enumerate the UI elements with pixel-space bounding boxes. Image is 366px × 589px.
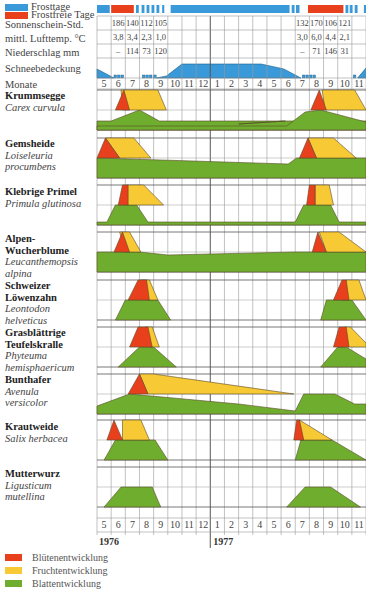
svg-text:7: 7 (300, 78, 305, 89)
svg-text:8: 8 (144, 78, 149, 89)
svg-text:132: 132 (296, 18, 309, 28)
svg-text:7: 7 (130, 519, 135, 530)
svg-text:4,4: 4,4 (325, 32, 336, 42)
svg-text:11: 11 (354, 519, 364, 530)
svg-text:120: 120 (154, 46, 167, 56)
svg-text:146: 146 (324, 46, 337, 56)
svg-text:10: 10 (170, 519, 180, 530)
svg-text:6: 6 (116, 519, 121, 530)
svg-text:6: 6 (116, 78, 121, 89)
svg-text:1976: 1976 (99, 536, 119, 547)
svg-text:9: 9 (328, 519, 333, 530)
svg-text:4: 4 (257, 519, 262, 530)
svg-text:10: 10 (340, 519, 350, 530)
svg-text:2: 2 (229, 78, 234, 89)
svg-text:2,1: 2,1 (339, 32, 350, 42)
svg-text:105: 105 (154, 18, 167, 28)
svg-text:5: 5 (102, 519, 107, 530)
svg-text:114: 114 (126, 46, 139, 56)
svg-text:12: 12 (198, 519, 208, 530)
svg-text:1: 1 (215, 519, 220, 530)
svg-text:6: 6 (286, 78, 291, 89)
svg-text:1,0: 1,0 (155, 32, 166, 42)
svg-text:6,0: 6,0 (311, 32, 322, 42)
svg-text:11: 11 (184, 519, 194, 530)
svg-text:–: – (299, 46, 305, 56)
svg-text:11: 11 (354, 78, 364, 89)
svg-text:71: 71 (312, 46, 321, 56)
svg-text:1: 1 (215, 78, 220, 89)
phenology-chart: 1861401121051321701061213,83,42,31,03,06… (0, 0, 366, 589)
svg-text:186: 186 (112, 18, 125, 28)
svg-text:–: – (115, 46, 121, 56)
svg-text:31: 31 (341, 46, 350, 56)
svg-text:12: 12 (198, 78, 208, 89)
svg-text:10: 10 (170, 78, 180, 89)
svg-text:2,3: 2,3 (141, 32, 152, 42)
svg-text:4: 4 (257, 78, 262, 89)
svg-text:170: 170 (310, 18, 323, 28)
svg-text:5: 5 (272, 519, 277, 530)
svg-text:1977: 1977 (213, 536, 233, 547)
svg-text:140: 140 (126, 18, 139, 28)
svg-text:3,8: 3,8 (113, 32, 124, 42)
svg-text:112: 112 (140, 18, 152, 28)
svg-text:8: 8 (144, 519, 149, 530)
svg-text:9: 9 (328, 78, 333, 89)
svg-text:73: 73 (142, 46, 151, 56)
svg-text:6: 6 (286, 519, 291, 530)
svg-text:5: 5 (272, 78, 277, 89)
svg-text:9: 9 (158, 78, 163, 89)
svg-text:2: 2 (229, 519, 234, 530)
svg-text:3: 3 (243, 519, 248, 530)
svg-text:9: 9 (158, 519, 163, 530)
svg-text:3: 3 (243, 78, 248, 89)
svg-text:11: 11 (184, 78, 194, 89)
svg-text:8: 8 (314, 519, 319, 530)
svg-text:121: 121 (338, 18, 351, 28)
svg-text:10: 10 (340, 78, 350, 89)
svg-text:3,4: 3,4 (127, 32, 138, 42)
svg-text:3,0: 3,0 (297, 32, 308, 42)
svg-text:5: 5 (102, 78, 107, 89)
svg-text:106: 106 (324, 18, 337, 28)
svg-text:7: 7 (300, 519, 305, 530)
svg-text:8: 8 (314, 78, 319, 89)
svg-text:7: 7 (130, 78, 135, 89)
